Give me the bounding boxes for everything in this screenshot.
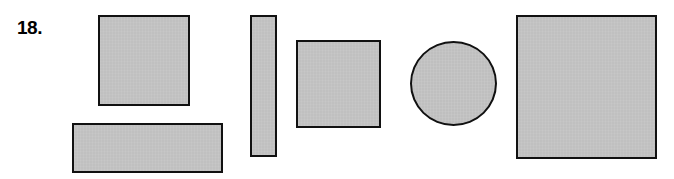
shape-square-upper-left bbox=[98, 15, 190, 106]
item-number-label: 18. bbox=[17, 17, 42, 39]
shape-narrow-vertical-bar bbox=[250, 15, 277, 157]
shape-square-middle bbox=[296, 40, 381, 128]
shape-ellipse bbox=[410, 41, 497, 126]
worksheet-figure: 18. bbox=[0, 0, 674, 179]
shape-large-square-right bbox=[516, 15, 657, 159]
shape-wide-rectangle-lower-left bbox=[72, 123, 223, 173]
